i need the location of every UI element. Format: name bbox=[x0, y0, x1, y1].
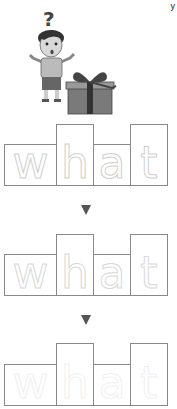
letter-box-h: h bbox=[56, 124, 94, 186]
letter-box-w: w bbox=[4, 364, 57, 406]
letter-row-faint: w h a t bbox=[0, 343, 177, 406]
letter-box-a: a bbox=[93, 364, 131, 406]
letter-w: w bbox=[13, 144, 49, 185]
gift-box-icon bbox=[66, 72, 116, 114]
letter-t: t bbox=[140, 253, 157, 295]
letter-h: h bbox=[61, 253, 89, 295]
letter-box-w: w bbox=[4, 254, 57, 296]
letter-box-t: t bbox=[130, 124, 168, 186]
letter-a: a bbox=[99, 364, 126, 405]
letter-w: w bbox=[13, 254, 49, 295]
down-arrow-icon bbox=[81, 205, 91, 215]
letter-box-t: t bbox=[130, 343, 168, 406]
letter-h: h bbox=[61, 363, 89, 405]
down-arrow-icon bbox=[81, 315, 91, 325]
illustration-boy-with-gift: ? bbox=[0, 0, 177, 118]
letter-box-t: t bbox=[130, 234, 168, 296]
letter-box-h: h bbox=[56, 234, 94, 296]
letter-t: t bbox=[140, 143, 157, 185]
letter-a: a bbox=[99, 254, 126, 295]
letter-box-a: a bbox=[93, 144, 131, 186]
letter-w: w bbox=[13, 364, 49, 405]
letter-box-w: w bbox=[4, 144, 57, 186]
letter-h: h bbox=[61, 143, 89, 185]
question-mark-icon: ? bbox=[43, 7, 55, 31]
letter-a: a bbox=[99, 144, 126, 185]
letter-row-outline: w h a t bbox=[0, 124, 177, 186]
letter-box-a: a bbox=[93, 254, 131, 296]
letter-t: t bbox=[140, 363, 157, 405]
letter-box-h: h bbox=[56, 343, 94, 406]
letter-row-dotted: w h a t bbox=[0, 234, 177, 296]
